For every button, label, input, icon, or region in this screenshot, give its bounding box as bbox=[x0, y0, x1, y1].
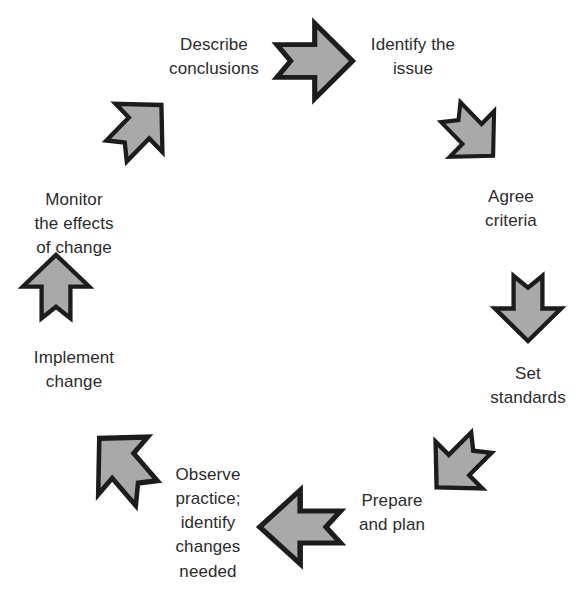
clinical-audit-cycle-diagram: Identify the issue Agree criteria Set st… bbox=[0, 0, 586, 601]
step-label-set-standards: Set standards bbox=[470, 362, 586, 410]
arrow-up-icon bbox=[20, 252, 92, 324]
arrow-right-icon bbox=[270, 20, 356, 102]
step-label-prepare-and-plan: Prepare and plan bbox=[338, 489, 446, 537]
arrow-down-right-icon bbox=[437, 98, 505, 168]
step-label-identify-the-issue: Identify the issue bbox=[352, 33, 474, 81]
arrow-up-left-icon bbox=[86, 423, 162, 511]
step-label-observe-practice: Observe practice; identify changes neede… bbox=[158, 463, 258, 584]
arrow-left-icon bbox=[256, 487, 348, 567]
arrow-up-right-icon bbox=[102, 92, 174, 166]
step-label-implement-change: Implement change bbox=[8, 346, 140, 394]
step-label-describe-conclusions: Describe conclusions bbox=[152, 33, 276, 81]
step-label-monitor-the-effects-of-change: Monitor the effects of change bbox=[12, 188, 136, 260]
arrow-down-icon bbox=[492, 270, 564, 344]
step-label-agree-criteria: Agree criteria bbox=[455, 185, 567, 233]
